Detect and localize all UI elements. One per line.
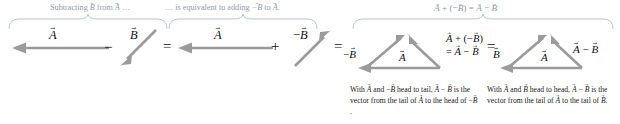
annot1-vector-b: B [90,4,95,12]
annotation-label-3: A + (−B) = A − B [434,4,497,13]
annotation-label-2: … is equivalent to adding −B to A. [165,4,280,12]
annot1-middle: from [95,3,115,12]
equals-glyph-2: = [334,38,342,54]
label-vector-A-panel1: A [49,28,57,42]
caption-1: With A and −B head to tail, A − B is the… [350,85,478,117]
vector-arrow-A-panel2 [176,40,286,56]
annot3-vector-b2: B [492,4,498,13]
t1-vec-b: B [349,48,356,61]
vec-b-glyph-2: B [300,28,308,42]
vec-a-glyph-2: A [214,28,222,42]
c2-vec-b3: B [601,96,606,107]
equals-glyph-1: = [163,38,171,54]
c1-vec-a1: A [367,85,372,96]
c1-vec-b2: B [447,85,452,96]
annot2-vector-negb: −B [252,4,263,12]
label-result-triangle-2: A − B [573,43,598,56]
label-result-triangle-1: A + (−B) = A − B [446,33,483,58]
vec-a-glyph: A [49,28,57,42]
negb-minus: − [293,28,300,42]
plus-operator-panel2: + [271,38,279,55]
t1-result-line2: = A − B [446,46,483,58]
t1-r-vec-a: A [446,33,452,45]
annot3-vector-b1: B [458,4,464,13]
annot3-plus: + (− [440,3,458,13]
c1-vec-a2: A [435,85,440,96]
t2-r-vec-a: A [573,43,580,56]
c2-vec-a2: A [572,85,577,96]
annot2-prefix: … is equivalent to adding [165,3,252,12]
c2-vec-b1: B [523,85,528,96]
annot3-vector-a2: A [476,4,482,13]
c2-vec-a1: A [504,85,509,96]
annot2-middle: to [262,3,272,12]
annotation-label-1: Subtracting B from A … [50,4,130,12]
vector-arrow-B-panel1 [116,26,162,70]
t1-r2-vec-a: A [455,46,461,58]
minus-operator-panel1: − [104,39,112,56]
c1-vec-a3: A [419,96,424,107]
c2-vec-b2: B [585,85,590,96]
annot2-vector-a: A [273,4,278,12]
t1-r2-vec-b: B [472,46,478,58]
annot1-vector-a: A [115,4,120,12]
label-B-triangle-2: B [493,48,500,61]
t2-vec-a: A [541,51,548,64]
annot1-prefix: Subtracting [50,3,90,12]
label-vector-B-panel1: B [130,28,138,42]
t2-vec-b: B [493,48,500,61]
plus-glyph: + [271,38,279,54]
minus-glyph: − [104,39,112,55]
label-A-triangle-1: A [399,51,406,64]
label-vector-A-panel2: A [214,28,222,42]
c1-vec-b1: B [390,85,395,96]
label-vector-negB-panel2: −B [293,28,308,42]
caption-2: With A and B head to head, A − B is the … [487,85,615,107]
t2-r-vec-b: B [591,43,598,56]
annot3-vector-a1: A [434,4,440,13]
label-negB-triangle-1: −B [343,48,356,61]
t1-vec-a: A [399,51,406,64]
c1-vec-b3: B [473,96,478,107]
annot1-suffix: … [120,3,130,12]
c2-vec-a3: A [556,96,561,107]
label-A-triangle-2: A [541,51,548,64]
annot3-equals: ) = [463,3,476,13]
vec-b-glyph: B [130,28,138,42]
equals-sign-2: = [334,38,342,55]
annot3-minus: − [482,3,492,13]
equals-sign-1: = [163,38,171,55]
